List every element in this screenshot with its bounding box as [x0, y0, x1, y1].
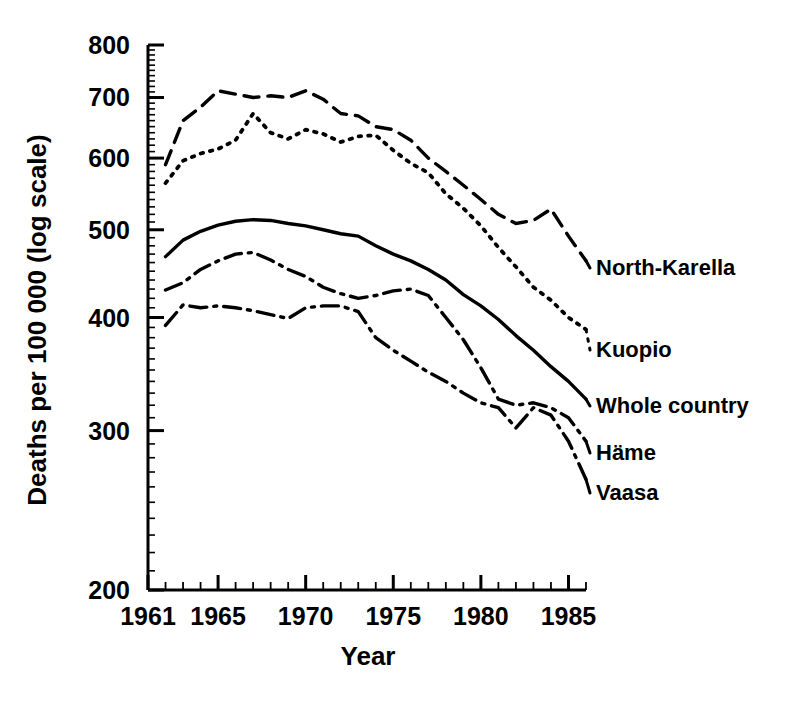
series-leader-lines: [586, 261, 590, 493]
x-tick-label-1970: 1970: [278, 602, 334, 630]
leader-line-kuopio: [586, 329, 590, 350]
series-line-whole-country: [166, 220, 586, 399]
x-axis-tick-labels: 196119651970197519801985: [120, 602, 596, 630]
leader-line-vaasa: [586, 479, 590, 493]
series-line-vaasa: [166, 305, 586, 479]
x-tick-label-1980: 1980: [453, 602, 509, 630]
leader-line-h-me: [586, 441, 590, 453]
mortality-line-chart: 800700600500400300200 196119651970197519…: [0, 0, 812, 702]
chart-figure: 800700600500400300200 196119651970197519…: [0, 0, 812, 702]
chart-series-group: [166, 91, 586, 480]
leader-line-whole-country: [586, 399, 590, 406]
y-axis-title: Deaths per 100 000 (log scale): [22, 134, 52, 505]
chart-axes: [148, 45, 586, 590]
x-tick-label-1975: 1975: [365, 602, 421, 630]
y-axis-tick-labels: 800700600500400300200: [88, 31, 130, 604]
series-label-whole-country: Whole country: [596, 393, 750, 418]
x-tick-label-1985: 1985: [541, 602, 597, 630]
y-tick-label-800: 800: [88, 31, 130, 59]
leader-line-north-karelia: [586, 261, 590, 268]
x-tick-label-1961: 1961: [120, 602, 176, 630]
series-line-h-me: [166, 252, 586, 441]
series-line-north-karelia: [166, 91, 586, 261]
series-label-kuopio: Kuopio: [596, 337, 672, 362]
series-label-vaasa: Vaasa: [596, 480, 659, 505]
y-tick-label-400: 400: [88, 304, 130, 332]
y-tick-label-500: 500: [88, 216, 130, 244]
y-tick-label-200: 200: [88, 576, 130, 604]
x-axis-title: Year: [341, 641, 396, 671]
series-label-north-karelia: North-Karella: [596, 255, 736, 280]
y-tick-label-700: 700: [88, 83, 130, 111]
series-label-hame: Häme: [596, 440, 656, 465]
y-tick-label-300: 300: [88, 417, 130, 445]
y-tick-label-600: 600: [88, 144, 130, 172]
x-tick-label-1965: 1965: [190, 602, 246, 630]
